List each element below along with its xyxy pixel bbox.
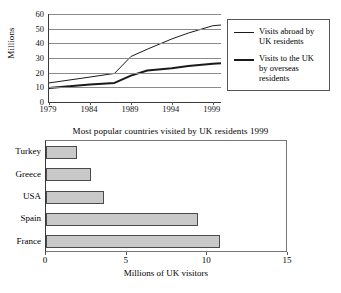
bar-category-label-spain: Spain (20, 213, 41, 223)
line-chart-x-tick-label: 1994 (162, 105, 179, 114)
line-chart-y-tick-label: 20 (36, 68, 45, 77)
bar-turkey (46, 146, 77, 159)
line-chart-gridline (49, 14, 221, 15)
bar-chart-plot-area (45, 140, 287, 252)
bar-row (46, 146, 77, 159)
legend-line-swatch-icon (234, 59, 254, 61)
bar-usa (46, 191, 104, 204)
bar-category-label-usa: USA (23, 191, 41, 201)
bar-chart-x-axis-title: Millions of UK visitors (45, 268, 287, 278)
line-chart-x-tick-labels: 19791984198919941999 (48, 105, 220, 117)
line-chart-gridline (49, 43, 221, 44)
bar-category-label-france: France (17, 236, 42, 246)
bar-chart-title: Most popular countries visited by UK res… (0, 126, 341, 136)
line-chart-y-tick-label: 10 (36, 83, 45, 92)
bar-chart-x-tick-label: 10 (202, 255, 211, 265)
bar-chart-x-tick-label: 5 (123, 255, 128, 265)
line-chart-y-tick-label: 30 (36, 54, 45, 63)
line-chart-series-visits-to-uk (49, 63, 221, 88)
legend-item-1: Visits to the UK by overseas residents (234, 53, 324, 83)
bar-category-label-greece: Greece (16, 169, 41, 179)
line-chart-x-tick-label: 1979 (40, 105, 57, 114)
bar-france (46, 235, 220, 248)
legend-item-label: Visits to the UK by overseas residents (259, 53, 314, 83)
legend-item-0: Visits abroad by UK residents (234, 26, 324, 46)
line-chart-y-tick-labels: 0102030405060 (22, 14, 44, 102)
line-chart-gridline (49, 73, 221, 74)
bar-chart: Most popular countries visited by UK res… (0, 126, 341, 293)
line-chart-gridline (49, 29, 221, 30)
line-chart-gridline (49, 58, 221, 59)
line-chart-x-tick-label: 1999 (203, 105, 220, 114)
bar-spain (46, 213, 198, 226)
bar-chart-x-tick-label: 15 (283, 255, 292, 265)
line-chart-gridline (49, 87, 221, 88)
line-chart-y-axis-title: Millions (6, 13, 16, 73)
bar-row (46, 235, 220, 248)
legend-line-swatch-icon (234, 32, 254, 33)
bar-category-label-turkey: Turkey (15, 146, 41, 156)
line-chart-plot-area (48, 14, 221, 103)
line-chart-y-tick-label: 50 (36, 24, 45, 33)
bar-row (46, 213, 198, 226)
line-chart-y-tick-label: 40 (36, 39, 45, 48)
bar-chart-x-axis-ticks: 051015 (45, 252, 287, 266)
line-chart-x-tick-label: 1989 (121, 105, 138, 114)
bar-chart-x-tick-label: 0 (43, 255, 48, 265)
bar-greece (46, 168, 91, 181)
bar-row (46, 168, 91, 181)
legend-item-label: Visits abroad by UK residents (259, 26, 314, 46)
bar-chart-category-labels: TurkeyGreeceUSASpainFrance (0, 140, 45, 252)
line-chart-y-tick-label: 60 (36, 10, 45, 19)
line-chart: Millions 0102030405060 19791984198919941… (0, 0, 341, 128)
line-chart-legend: Visits abroad by UK residentsVisits to t… (227, 19, 330, 91)
line-chart-x-tick-label: 1984 (80, 105, 97, 114)
bar-row (46, 191, 104, 204)
